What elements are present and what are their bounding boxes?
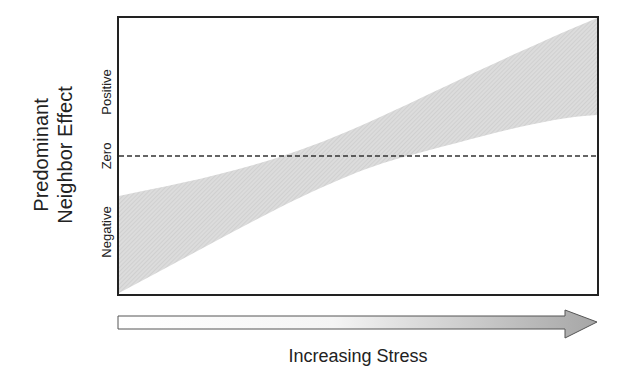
tick-negative: Negative bbox=[99, 206, 114, 257]
stress-gradient-diagram: Predominant Neighbor Effect Negative Zer… bbox=[0, 0, 627, 379]
stress-arrow bbox=[118, 310, 597, 338]
y-axis-label: Predominant Neighbor Effect bbox=[30, 86, 76, 224]
tick-positive: Positive bbox=[99, 69, 114, 115]
x-axis-label: Increasing Stress bbox=[288, 346, 427, 366]
effect-band bbox=[119, 18, 597, 293]
svg-text:Predominant: Predominant bbox=[30, 98, 52, 212]
svg-text:Neighbor Effect: Neighbor Effect bbox=[54, 86, 76, 224]
tick-zero: Zero bbox=[99, 143, 114, 170]
